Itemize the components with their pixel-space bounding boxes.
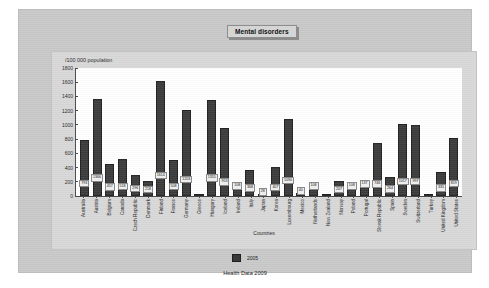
bar-value-label: 28 — [259, 188, 267, 196]
y-axis-title: /100 000 population — [65, 57, 112, 63]
chart-title-tab[interactable]: Mental disorders — [227, 25, 297, 38]
bar-slot: 1366 — [91, 68, 104, 196]
bar[interactable]: 108 — [309, 188, 318, 196]
x-tick-mark — [418, 196, 419, 198]
y-tick-1800: 1800 — [62, 65, 76, 71]
bar-slot: 953 — [218, 68, 231, 196]
x-axis-category-label: Korea — [274, 199, 279, 211]
bar[interactable]: 368 — [245, 170, 254, 196]
bar[interactable]: 108 — [347, 188, 356, 196]
bar-value-label: 407 — [270, 184, 280, 192]
bar-slot — [422, 68, 435, 196]
y-tick-1000: 1000 — [62, 122, 76, 128]
bar[interactable]: 1614 — [156, 81, 165, 196]
chart-card: /100 000 population 18001600140012001000… — [51, 51, 477, 250]
bar[interactable]: 407 — [271, 167, 280, 196]
bar-value-label: 997 — [410, 178, 420, 186]
bar-value-label: 207 — [334, 186, 344, 194]
bar-value-label: 819 — [449, 180, 459, 188]
bar[interactable]: 218 — [143, 181, 152, 197]
x-axis-category-label: New Zealand — [325, 199, 330, 226]
bar[interactable]: 108 — [233, 188, 242, 196]
x-tick-mark — [212, 196, 213, 198]
bar[interactable]: 207 — [334, 181, 343, 196]
x-axis-category-label: Italy — [248, 199, 253, 207]
bar-slot: 335 — [435, 68, 448, 196]
bar-value-label: 40 — [297, 187, 305, 195]
bar-value-label: 1614 — [155, 172, 167, 180]
bar[interactable]: 1017 — [398, 124, 407, 196]
bar-slot: 518 — [116, 68, 129, 196]
bar-slot: 793 — [78, 68, 91, 196]
x-axis-category-label: United Kingdom — [441, 199, 446, 232]
bar-value-label: 518 — [118, 183, 128, 191]
x-tick-mark — [392, 196, 393, 198]
chart-legend: 2005 — [19, 254, 471, 262]
x-tick-mark — [122, 196, 123, 198]
bar-slot: 1090 — [282, 68, 295, 196]
bar-value-label: 108 — [232, 182, 242, 190]
bar[interactable]: 518 — [118, 159, 127, 196]
x-tick-mark — [251, 196, 252, 198]
bar[interactable]: 296 — [131, 175, 140, 196]
x-axis-category-label: Germany — [184, 199, 189, 218]
x-axis-category-label: Sweden — [402, 199, 407, 216]
bar[interactable]: 1366 — [93, 99, 102, 196]
bar-value-label: 1203 — [180, 176, 192, 184]
bar-slot: 1355 — [205, 68, 218, 196]
bar-value-label: 953 — [219, 178, 229, 186]
x-axis-category-label: Belgium — [107, 199, 112, 216]
x-tick-mark — [443, 196, 444, 198]
x-axis-category-label: Norway — [338, 199, 343, 215]
x-tick-mark — [135, 196, 136, 198]
bar-slot: 264 — [384, 68, 397, 196]
bar-value-label: 1017 — [397, 178, 409, 186]
x-tick-mark — [186, 196, 187, 198]
bar[interactable]: 508 — [169, 160, 178, 196]
x-tick-mark — [83, 196, 84, 198]
bar[interactable]: 264 — [385, 177, 394, 196]
bar[interactable]: 1203 — [182, 110, 191, 196]
x-tick-mark — [96, 196, 97, 198]
screenshot-root: Mental disorders /100 000 population 180… — [0, 0, 489, 288]
bar[interactable]: 457 — [105, 164, 114, 196]
bar[interactable]: 953 — [220, 128, 229, 196]
bar-slot: 108 — [307, 68, 320, 196]
x-tick-mark — [161, 196, 162, 198]
x-axis-category-label: Hungary — [210, 199, 215, 216]
x-tick-mark — [225, 196, 226, 198]
bar-value-label: 264 — [385, 185, 395, 193]
bar[interactable]: 335 — [436, 172, 445, 196]
bar-slot: 1203 — [180, 68, 193, 196]
bar-slot: 137 — [358, 68, 371, 196]
bar[interactable]: 746 — [373, 143, 382, 196]
x-tick-mark — [315, 196, 316, 198]
bar[interactable]: 1090 — [284, 119, 293, 197]
x-axis-category-label: Netherlands — [312, 199, 317, 224]
bar-slot: 296 — [129, 68, 142, 196]
x-tick-mark — [173, 196, 174, 198]
chart-source-footer: Health Data 2009 — [19, 270, 471, 276]
bar-slot: 368 — [244, 68, 257, 196]
x-axis-category-label: Poland — [351, 199, 356, 213]
bar-slot: 40 — [294, 68, 307, 196]
bar-value-label: 108 — [309, 182, 319, 190]
bar[interactable]: 997 — [411, 125, 420, 196]
bar-slot: 457 — [103, 68, 116, 196]
bar[interactable] — [322, 194, 331, 196]
bar-slot: 108 — [345, 68, 358, 196]
bar-value-label: 793 — [79, 180, 89, 188]
bar-value-label: 335 — [436, 184, 446, 192]
y-tick-1600: 1600 — [62, 79, 76, 85]
x-tick-mark — [366, 196, 367, 198]
bar[interactable]: 1355 — [207, 100, 216, 196]
x-axis-category-label: Finland — [158, 199, 163, 214]
bar-slot: 997 — [409, 68, 422, 196]
bar[interactable]: 40 — [296, 193, 305, 196]
bar[interactable]: 793 — [80, 140, 89, 196]
bar-value-label: 218 — [143, 186, 153, 194]
y-tick-600: 600 — [65, 150, 76, 156]
bar[interactable]: 137 — [360, 186, 369, 196]
x-tick-mark — [379, 196, 380, 198]
bar[interactable]: 819 — [449, 138, 458, 196]
